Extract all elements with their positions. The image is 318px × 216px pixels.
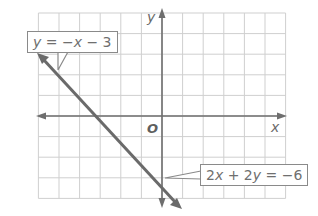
y-axis-label: y (146, 9, 156, 25)
text: = − (41, 34, 73, 50)
top-callout-leader (58, 50, 69, 70)
y-axis-down-arrow-icon (159, 198, 166, 208)
text: + 2 (223, 167, 253, 183)
equation-callout-top: y = −x − 3 (27, 31, 118, 53)
text: − 3 (82, 34, 112, 50)
var-y: y (253, 167, 261, 183)
x-axis-left-arrow-icon (36, 113, 46, 120)
var-x: x (215, 167, 223, 183)
equation-callout-bottom: 2x + 2y = −6 (200, 164, 308, 186)
text: = −6 (261, 167, 302, 183)
text: 2 (206, 167, 215, 183)
var-x: x (74, 34, 82, 50)
origin-label: O (147, 121, 158, 136)
x-axis-label: x (270, 119, 280, 135)
